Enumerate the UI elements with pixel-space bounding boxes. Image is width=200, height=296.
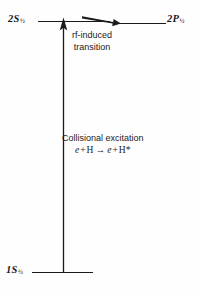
collisional-excitation-caption-line1: Collisional excitation — [62, 133, 144, 145]
level-label-2p-term: 2P — [167, 13, 179, 24]
rf-transition-caption: rf-induced transition — [72, 30, 112, 53]
level-label-1s: 1S½ — [6, 265, 23, 276]
energy-level-diagram: 2S½ 2P½ 1S½ rf-induced transition Collis… — [0, 0, 200, 296]
collisional-excitation-caption: Collisional excitation e + H → e + H* — [62, 133, 144, 156]
equation-plus-1: + — [80, 145, 85, 155]
level-label-1s-term: 1S — [6, 264, 18, 275]
level-label-2s: 2S½ — [8, 14, 25, 25]
rf-transition-caption-line2: transition — [72, 42, 112, 54]
equation-hydrogen-1: H — [87, 145, 94, 155]
equation-electron-1: e — [75, 145, 79, 155]
equation-hydrogen-excited: H* — [119, 145, 131, 155]
equation-electron-2: e — [107, 145, 111, 155]
level-label-2p: 2P½ — [167, 14, 185, 25]
level-label-2p-subscript: ½ — [180, 18, 185, 25]
equation-plus-2: + — [112, 145, 117, 155]
equation-arrow-icon: → — [96, 145, 106, 155]
level-label-2s-subscript: ½ — [20, 18, 25, 25]
level-label-1s-subscript: ½ — [18, 269, 23, 276]
collisional-excitation-equation: e + H → e + H* — [62, 145, 144, 157]
level-label-2s-term: 2S — [8, 13, 20, 24]
rf-transition-caption-line1: rf-induced — [72, 30, 112, 42]
